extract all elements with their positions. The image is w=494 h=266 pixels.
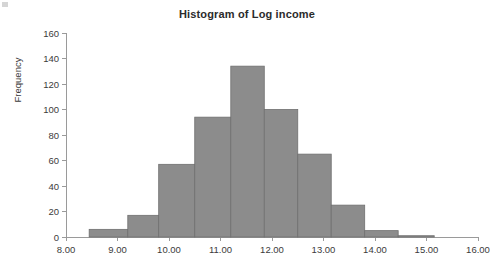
x-tick-label: 8.00 xyxy=(57,244,76,255)
histogram-bar xyxy=(264,110,297,238)
histogram-bar xyxy=(365,231,398,237)
y-tick-label: 60 xyxy=(48,155,59,166)
y-tick-label: 120 xyxy=(43,79,59,90)
x-tick-label: 15.00 xyxy=(415,244,439,255)
y-tick-label: 80 xyxy=(48,130,59,141)
x-tick-label: 10.00 xyxy=(157,244,181,255)
x-tick-label: 12.00 xyxy=(260,244,284,255)
histogram-bar xyxy=(298,154,331,237)
histogram-bar xyxy=(331,205,364,237)
y-tick-label: 100 xyxy=(43,104,59,115)
x-tick-label: 14.00 xyxy=(363,244,387,255)
y-tick-label: 160 xyxy=(43,28,59,39)
y-tick-label: 40 xyxy=(48,181,59,192)
histogram-bar xyxy=(89,229,128,237)
x-tick-label: 16.00 xyxy=(466,244,490,255)
x-tick-label: 13.00 xyxy=(312,244,336,255)
y-tick-label: 0 xyxy=(54,232,59,243)
plot-area: 0204060801001201401608.009.0010.0011.001… xyxy=(0,0,494,266)
histogram-chart: Histogram of Log income Frequency 020406… xyxy=(0,0,494,266)
histogram-bar xyxy=(128,215,159,237)
histogram-bar xyxy=(159,164,195,237)
histogram-bar xyxy=(231,66,264,237)
y-tick-label: 140 xyxy=(43,53,59,64)
x-tick-label: 9.00 xyxy=(108,244,127,255)
histogram-bar xyxy=(398,236,434,237)
x-tick-label: 11.00 xyxy=(209,244,232,255)
histogram-bar xyxy=(195,117,231,237)
y-tick-label: 20 xyxy=(48,206,59,217)
